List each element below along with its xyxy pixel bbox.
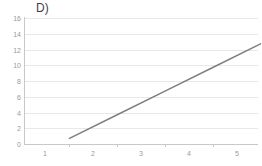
gridline <box>24 34 258 35</box>
x-axis-tick-mark <box>117 144 118 147</box>
y-axis-line <box>24 17 25 145</box>
y-axis-tick-label: 10 <box>1 62 21 69</box>
y-axis-tick-label: 0 <box>1 141 21 148</box>
chart-figure: D) 1614121086420 12345 <box>0 0 262 166</box>
x-axis-tick-label: 2 <box>81 150 105 158</box>
y-axis-tick-label: 12 <box>1 47 21 54</box>
y-axis-tick-label: 8 <box>1 78 21 85</box>
y-axis-tick-label: 4 <box>1 110 21 117</box>
y-axis-tick-label: 6 <box>1 94 21 101</box>
x-axis-tick-mark <box>69 144 70 147</box>
plot-area <box>24 18 258 144</box>
x-axis-line <box>24 144 258 145</box>
y-axis-tick-label: 2 <box>1 125 21 132</box>
y-axis-tick-label: 16 <box>1 15 21 22</box>
x-axis-tick-labels: 12345 <box>24 150 258 162</box>
chart-title: D) <box>36 1 49 15</box>
x-axis-tick-label: 1 <box>33 150 57 158</box>
x-axis-tick-label: 4 <box>177 150 201 158</box>
x-axis-tick-mark <box>213 144 214 147</box>
line-series-1 <box>69 44 260 139</box>
x-axis-tick-label: 3 <box>129 150 153 158</box>
gridline <box>24 18 258 19</box>
y-axis-tick-label: 14 <box>1 31 21 38</box>
x-axis-tick-mark <box>165 144 166 147</box>
y-axis-tick-labels: 1614121086420 <box>0 18 21 144</box>
x-axis-tick-label: 5 <box>225 150 249 158</box>
